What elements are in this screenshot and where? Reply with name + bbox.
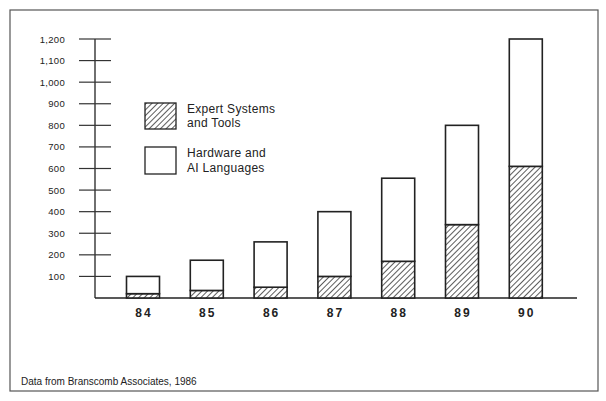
legend-swatch-hardware: [145, 147, 176, 174]
bar-hardware-84: [127, 276, 160, 293]
source-annotation: Data from Branscomb Associates, 1986: [21, 376, 197, 387]
legend-swatch-expert-systems: [145, 103, 176, 129]
y-tick-label: 1,100: [40, 55, 65, 66]
x-tick-label: 86: [263, 306, 280, 320]
y-tick-label: 800: [48, 120, 65, 131]
legend-label-expert-systems-line1: Expert Systems: [187, 102, 275, 116]
bar-expert-systems-89: [446, 225, 479, 298]
bar-hardware-90: [509, 39, 542, 166]
y-tick-label: 400: [48, 206, 65, 217]
x-tick-label: 89: [454, 306, 471, 320]
y-tick-label: 1,200: [40, 34, 65, 45]
bar-expert-systems-85: [190, 290, 223, 298]
bar-hardware-89: [446, 125, 479, 224]
x-tick-label: 85: [199, 306, 216, 320]
legend: Expert Systems and Tools Hardware and AI…: [145, 102, 275, 175]
y-tick-label: 900: [48, 98, 65, 109]
chart: 1002003004005006007008009001,0001,1001,2…: [0, 0, 606, 401]
legend-label-expert-systems-line2: and Tools: [187, 116, 241, 130]
x-tick-label: 90: [518, 306, 535, 320]
y-tick-label: 300: [48, 228, 65, 239]
bar-hardware-88: [382, 178, 415, 261]
y-tick-label: 500: [48, 185, 65, 196]
y-tick-label: 700: [48, 141, 65, 152]
x-tick-label: 88: [391, 306, 408, 320]
bar-hardware-86: [254, 242, 287, 287]
bar-expert-systems-88: [382, 261, 415, 298]
y-tick-label: 600: [48, 163, 65, 174]
axes: 1002003004005006007008009001,0001,1001,2…: [40, 34, 577, 321]
y-tick-label: 200: [48, 249, 65, 260]
bar-expert-systems-87: [318, 276, 351, 298]
y-tick-label: 100: [48, 271, 65, 282]
bar-expert-systems-90: [509, 166, 542, 298]
bar-hardware-87: [318, 212, 351, 277]
legend-label-hardware-line1: Hardware and: [187, 146, 266, 160]
x-tick-label: 84: [135, 306, 152, 320]
y-tick-label: 1,000: [40, 77, 65, 88]
legend-label-hardware-line2: AI Languages: [187, 161, 265, 175]
x-tick-label: 87: [327, 306, 344, 320]
bar-hardware-85: [190, 260, 223, 290]
bar-expert-systems-86: [254, 287, 287, 298]
